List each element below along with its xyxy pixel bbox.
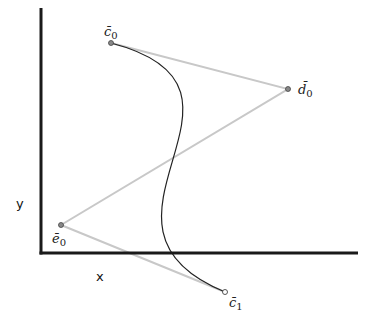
- bezier-curve: [111, 43, 225, 292]
- control-point-e0[interactable]: [59, 223, 64, 228]
- diagram-canvas: x y c̄0 d̄0 ē0 c̄1: [0, 0, 371, 324]
- label-c0: c̄0: [104, 24, 118, 41]
- control-point-c1[interactable]: [223, 290, 228, 295]
- label-d0: d̄0: [298, 81, 313, 99]
- control-point-c0[interactable]: [109, 41, 114, 46]
- label-c1: c̄1: [229, 295, 243, 312]
- label-e0: ē0: [52, 231, 66, 248]
- control-point-d0[interactable]: [286, 87, 291, 92]
- x-axis-label: x: [96, 269, 104, 284]
- y-axis-label: y: [16, 196, 24, 211]
